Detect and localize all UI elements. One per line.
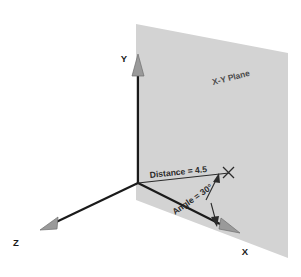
x-axis-label: X — [242, 246, 249, 257]
z-axis-line — [52, 183, 138, 224]
z-axis-label: Z — [13, 237, 19, 248]
coordinate-system-diagram: Z X Y Distance = 4.5 Angle = 30° X-Y Pla… — [0, 0, 301, 277]
xy-plane-surface — [136, 24, 288, 258]
z-axis-arrowhead — [40, 217, 58, 230]
y-axis-label: Y — [121, 53, 128, 64]
